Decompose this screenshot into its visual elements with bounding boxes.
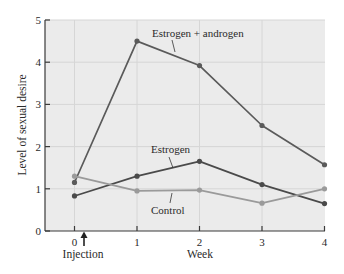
y-axis-title: Level of sexual desire (16, 74, 28, 175)
data-point (259, 182, 264, 187)
data-point (134, 188, 139, 193)
x-tick-label: 0 (72, 236, 78, 248)
label-estrogen: Estrogen (151, 143, 191, 155)
y-tick-label: 4 (36, 56, 42, 68)
y-tick-label: 5 (36, 14, 42, 26)
y-tick-label: 2 (36, 141, 42, 153)
line-chart: 012345 01234 Level of sexual desire Week… (0, 0, 344, 274)
x-tick-label: 4 (322, 236, 328, 248)
data-point (197, 187, 202, 192)
data-point (134, 39, 139, 44)
x-axis-title: Week (187, 248, 213, 260)
x-tick-label: 2 (197, 236, 203, 248)
injection-annotation: Injection (63, 232, 104, 262)
data-point (259, 123, 264, 128)
injection-label: Injection (63, 248, 104, 261)
data-point (322, 201, 327, 206)
data-point (72, 193, 77, 198)
label-estrogen-androgen: Estrogen + androgen (152, 27, 244, 39)
data-point (134, 174, 139, 179)
data-point (72, 180, 77, 185)
data-point (322, 186, 327, 191)
x-tick-label: 3 (259, 236, 265, 248)
x-tick-label: 1 (134, 236, 140, 248)
x-tick-labels: 01234 (72, 236, 328, 248)
y-tick-label: 1 (36, 183, 42, 195)
data-point (72, 174, 77, 179)
arrow-head-icon (81, 232, 88, 239)
data-point (322, 162, 327, 167)
data-point (259, 201, 264, 206)
y-tick-labels: 012345 (36, 14, 42, 237)
y-tick-label: 3 (36, 98, 42, 110)
label-control: Control (151, 204, 185, 216)
data-point (197, 63, 202, 68)
y-tick-label: 0 (36, 225, 42, 237)
plot-background (45, 20, 325, 231)
data-point (197, 159, 202, 164)
